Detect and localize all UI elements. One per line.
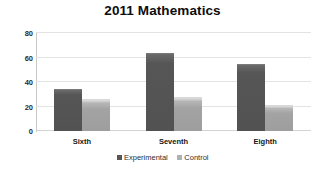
- y-axis-tick-label: 0: [3, 127, 33, 136]
- bar-experimental-eighth: [237, 64, 265, 131]
- plot-area: [36, 33, 311, 131]
- x-axis-category-label: Sixth: [36, 137, 128, 146]
- x-axis-category-label: Seventh: [128, 137, 220, 146]
- chart-title: 2011 Mathematics: [0, 3, 325, 18]
- bar-control-sixth: [82, 99, 110, 131]
- x-axis-category-label: Eighth: [219, 137, 311, 146]
- bar-group: [146, 33, 202, 131]
- legend-item: Control: [177, 153, 209, 162]
- bar-chart: 2011 Mathematics 020406080 ExperimentalC…: [0, 0, 325, 175]
- legend-item-label: Control: [184, 153, 208, 162]
- legend-swatch-experimental: [117, 155, 122, 160]
- chart-legend: ExperimentalControl: [0, 153, 325, 162]
- bar-experimental-sixth: [54, 89, 82, 131]
- y-axis-tick-label: 20: [3, 102, 33, 111]
- bar-group: [54, 33, 110, 131]
- legend-swatch-control: [177, 155, 182, 160]
- y-axis-tick-label: 60: [3, 53, 33, 62]
- y-axis-tick-label: 80: [3, 29, 33, 38]
- legend-item-label: Experimental: [124, 153, 168, 162]
- bar-group: [237, 33, 293, 131]
- y-axis-tick-labels: 020406080: [0, 33, 33, 131]
- legend-item: Experimental: [117, 153, 168, 162]
- y-axis-tick-label: 40: [3, 78, 33, 87]
- bar-control-seventh: [174, 97, 202, 131]
- bar-experimental-seventh: [146, 53, 174, 131]
- bar-control-eighth: [265, 105, 293, 131]
